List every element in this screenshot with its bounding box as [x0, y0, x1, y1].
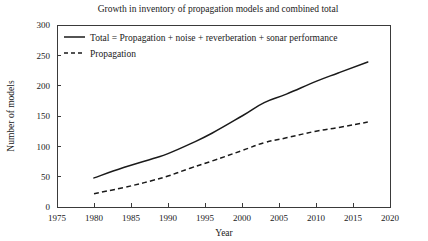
y-tick-label: 100: [37, 142, 51, 152]
legend-label-total: Total = Propagation + noise + reverberat…: [90, 33, 337, 43]
x-tick-label: 1980: [85, 213, 104, 223]
legend-entry-total: Total = Propagation + noise + reverberat…: [64, 33, 337, 43]
x-tick-label: 1990: [159, 213, 178, 223]
y-tick-label: 0: [46, 202, 51, 212]
x-tick-label: 1995: [196, 213, 215, 223]
series-line-total: [94, 62, 368, 178]
x-tick-label: 1975: [48, 213, 67, 223]
x-tick-label: 2020: [381, 213, 400, 223]
legend-label-propagation: Propagation: [90, 49, 136, 59]
chart-figure: Growth in inventory of propagation model…: [0, 0, 428, 241]
y-tick-label: 200: [37, 81, 51, 91]
y-tick-label: 250: [37, 51, 51, 61]
chart-title: Growth in inventory of propagation model…: [98, 4, 339, 14]
legend-entry-propagation: Propagation: [64, 49, 136, 59]
y-axis-title: Number of models: [6, 80, 16, 152]
x-tick-label: 2000: [233, 213, 252, 223]
x-tick-label: 1985: [122, 213, 141, 223]
x-axis-title: Year: [215, 228, 233, 238]
y-tick-label: 300: [37, 20, 51, 30]
x-tick-label: 2010: [307, 213, 326, 223]
series-line-propagation: [94, 122, 368, 194]
chart-legend: Total = Propagation + noise + reverberat…: [64, 33, 337, 59]
x-axis-ticks: 1975198019851990199520002005201020152020: [48, 203, 400, 223]
x-tick-label: 2005: [270, 213, 289, 223]
chart-svg: Growth in inventory of propagation model…: [0, 0, 428, 241]
series-layer: [94, 62, 368, 194]
x-tick-label: 2015: [344, 213, 363, 223]
y-tick-label: 150: [37, 111, 51, 121]
y-tick-label: 50: [41, 172, 51, 182]
